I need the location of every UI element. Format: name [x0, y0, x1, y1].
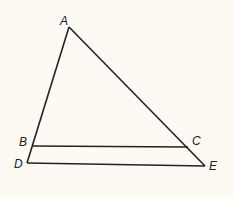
label-A: A [59, 14, 68, 28]
segment-DE [27, 163, 205, 166]
label-E: E [209, 159, 218, 173]
segment-AD [27, 27, 69, 163]
segment-BC [32, 146, 188, 147]
label-D: D [14, 157, 23, 171]
triangle-diagram: A B C D E [0, 0, 233, 199]
label-B: B [19, 135, 27, 149]
diagram-canvas: A B C D E [0, 0, 233, 199]
label-C: C [192, 134, 201, 148]
segment-AE [69, 27, 205, 166]
